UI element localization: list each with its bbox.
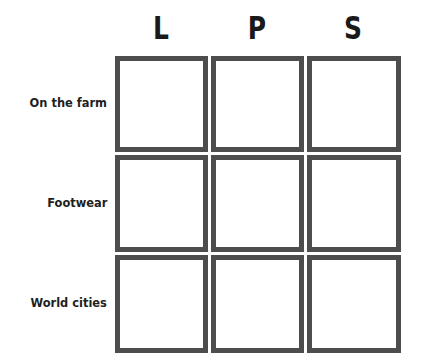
column-header-s: S	[317, 8, 389, 48]
answer-box-footwear-p[interactable]	[211, 155, 304, 252]
answer-box-farm-p[interactable]	[211, 56, 304, 152]
answer-box-footwear-s[interactable]	[307, 155, 401, 252]
row-label-footwear: Footwear	[47, 195, 107, 211]
row-label-world-cities: World cities	[31, 295, 107, 311]
answer-box-cities-s[interactable]	[307, 255, 401, 353]
answer-box-footwear-l[interactable]	[115, 155, 208, 252]
column-header-p: P	[221, 8, 293, 48]
answer-box-farm-l[interactable]	[115, 56, 208, 152]
column-header-l: L	[125, 8, 197, 48]
answer-box-farm-s[interactable]	[307, 56, 401, 152]
answer-box-cities-l[interactable]	[115, 255, 208, 353]
answer-box-cities-p[interactable]	[211, 255, 304, 353]
row-label-on-the-farm: On the farm	[30, 95, 107, 111]
